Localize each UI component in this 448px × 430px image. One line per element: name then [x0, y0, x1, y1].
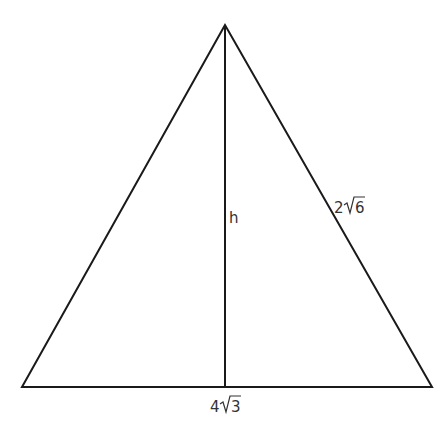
triangle-diagram: h 2 6 4 3 — [0, 0, 448, 430]
side-label-radicand: 6 — [355, 199, 365, 217]
base-label: 4 3 — [210, 396, 241, 416]
side-label-coef: 2 — [334, 199, 344, 217]
base-label-radicand: 3 — [231, 398, 241, 416]
height-label: h — [229, 209, 239, 227]
triangle — [22, 25, 432, 387]
side-label: 2 6 — [334, 197, 365, 217]
base-label-coef: 4 — [210, 398, 220, 416]
